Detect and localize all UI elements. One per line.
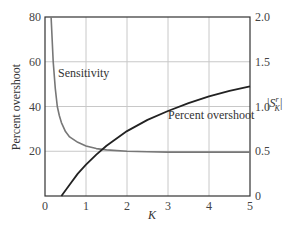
y-tick-label: 80	[29, 10, 41, 24]
y-tick-label: 20	[29, 144, 41, 158]
x-tick-label: 4	[206, 199, 212, 213]
grid-lines	[45, 17, 250, 196]
x-tick-label: 1	[83, 199, 89, 213]
x-tick-label: 5	[247, 199, 253, 213]
y2-tick-label: 1.5	[255, 55, 270, 69]
overshoot-annotation: Percent overshoot	[168, 108, 255, 122]
y-tick-label: 60	[29, 55, 41, 69]
y-tick-label: 40	[29, 100, 41, 114]
x-tick-label: 3	[165, 199, 171, 213]
y2-tick-label: 0.5	[255, 144, 270, 158]
x-tick-label: 0	[42, 199, 48, 213]
chart: 012345 80604020 2.01.51.00.50 K Percent …	[0, 0, 302, 229]
y2-tick-label: 0	[255, 189, 261, 203]
y-axis-ticks: 80604020	[29, 10, 41, 158]
sensitivity-curve	[51, 17, 250, 152]
y2-tick-label: 2.0	[255, 10, 270, 24]
sensitivity-annotation: Sensitivity	[58, 66, 109, 80]
percent-overshoot-curve	[61, 86, 250, 196]
x-axis-label: K	[147, 208, 157, 222]
x-tick-label: 2	[124, 199, 130, 213]
y-axis-label: Percent overshoot	[9, 63, 23, 150]
